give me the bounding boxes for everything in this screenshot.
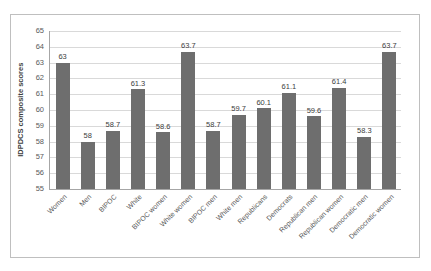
- y-axis-tick-labels: 6564636261605958575655: [11, 31, 47, 189]
- bar-value-label: 58.3: [357, 127, 372, 135]
- bar-value-label: 60.1: [256, 99, 271, 107]
- gridline: [49, 189, 401, 190]
- bar[interactable]: [382, 52, 396, 189]
- bar-value-label: 63.7: [181, 42, 196, 50]
- bar-item[interactable]: 61.1: [276, 31, 301, 189]
- bar-item[interactable]: 60.1: [251, 31, 276, 189]
- bar-item[interactable]: 58.7: [201, 31, 226, 189]
- x-axis-category: BIPOC men: [201, 191, 226, 255]
- y-axis-tick-label: 64: [36, 43, 44, 51]
- y-axis-tick-label: 55: [36, 185, 44, 193]
- x-axis-tick-label: Men: [78, 193, 93, 208]
- bar[interactable]: [156, 132, 170, 189]
- bar-value-label: 58.7: [106, 121, 121, 129]
- bar[interactable]: [232, 115, 246, 189]
- bar[interactable]: [81, 142, 95, 189]
- bar[interactable]: [282, 93, 296, 189]
- x-axis-tick-labels: WomenMenBIPOCWhiteBIPOC womenWhite women…: [50, 191, 402, 255]
- bar-value-label: 63: [58, 53, 66, 61]
- x-axis-tick-label: BIPOC: [97, 193, 117, 213]
- bar-item[interactable]: 61.3: [125, 31, 150, 189]
- bar-value-label: 61.3: [131, 80, 146, 88]
- bar[interactable]: [257, 108, 271, 189]
- y-axis-tick-label: 61: [36, 90, 44, 98]
- y-axis-tick-label: 60: [36, 106, 44, 114]
- x-axis-tick-label: Women: [46, 193, 68, 215]
- y-axis-tick-label: 57: [36, 154, 44, 162]
- bar[interactable]: [181, 52, 195, 189]
- x-axis-tick-label: White: [125, 193, 143, 211]
- y-axis-tick-label: 59: [36, 122, 44, 130]
- bar-item[interactable]: 58.3: [352, 31, 377, 189]
- bar-item[interactable]: 63: [50, 31, 75, 189]
- x-axis-category: Republicans: [251, 191, 276, 255]
- x-axis-category: BIPOC: [100, 191, 125, 255]
- x-axis-category: Women: [50, 191, 75, 255]
- plot-area: 635858.761.358.663.758.759.760.161.159.6…: [49, 31, 401, 189]
- y-axis-tick-label: 56: [36, 169, 44, 177]
- bar-item[interactable]: 59.6: [301, 31, 326, 189]
- bar[interactable]: [307, 116, 321, 189]
- bar-series: 635858.761.358.663.758.759.760.161.159.6…: [50, 31, 401, 189]
- bar[interactable]: [206, 131, 220, 189]
- bar-value-label: 59.6: [307, 107, 322, 115]
- bar-value-label: 58.7: [206, 121, 221, 129]
- bar-item[interactable]: 61.4: [327, 31, 352, 189]
- bar-value-label: 61.4: [332, 78, 347, 86]
- x-axis-category: Democratic women: [377, 191, 402, 255]
- bar-item[interactable]: 58.6: [151, 31, 176, 189]
- chart-frame: IDPDCS composite scores 6564636261605958…: [10, 14, 420, 258]
- bar[interactable]: [106, 131, 120, 189]
- bar-item[interactable]: 63.7: [377, 31, 402, 189]
- y-axis-tick-label: 62: [36, 75, 44, 83]
- bar-item[interactable]: 58: [75, 31, 100, 189]
- bar-item[interactable]: 58.7: [100, 31, 125, 189]
- bar-item[interactable]: 63.7: [176, 31, 201, 189]
- y-axis-tick-label: 65: [36, 27, 44, 35]
- bar[interactable]: [332, 88, 346, 189]
- y-axis-tick-label: 58: [36, 138, 44, 146]
- bar-value-label: 59.7: [231, 105, 246, 113]
- bar[interactable]: [131, 89, 145, 189]
- bar-item[interactable]: 59.7: [226, 31, 251, 189]
- x-axis-category: Men: [75, 191, 100, 255]
- bar-value-label: 58: [84, 132, 92, 140]
- bar[interactable]: [357, 137, 371, 189]
- bar-value-label: 61.1: [282, 83, 297, 91]
- bar-value-label: 58.6: [156, 123, 171, 131]
- x-axis-category: White women: [176, 191, 201, 255]
- bar-value-label: 63.7: [382, 42, 397, 50]
- y-axis-tick-label: 63: [36, 59, 44, 67]
- bar[interactable]: [56, 63, 70, 189]
